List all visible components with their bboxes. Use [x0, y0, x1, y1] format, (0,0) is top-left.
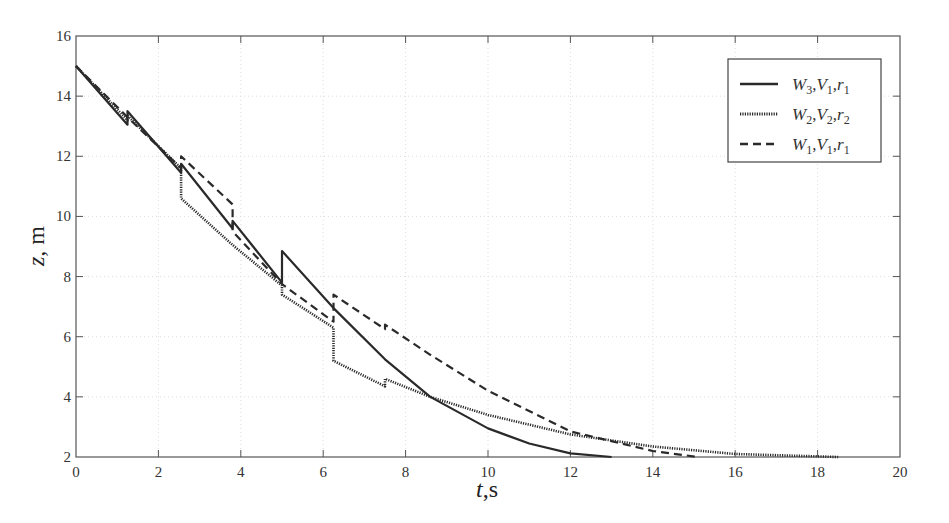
legend: W3,V1,r1W2,V2,r2W1,V1,r1	[728, 59, 881, 162]
data-series	[76, 66, 838, 457]
x-tick-label: 4	[237, 464, 245, 480]
x-axis-label: t,s	[476, 476, 498, 502]
y-tick-label: 2	[64, 449, 72, 465]
y-tick-label: 16	[56, 28, 72, 44]
x-tick-label: 18	[810, 464, 825, 480]
series-line-dotted	[76, 66, 838, 457]
x-tick-label: 2	[155, 464, 163, 480]
legend-label: W3,V1,r1	[792, 75, 850, 97]
y-axis-label: z, m	[23, 226, 49, 267]
x-tick-label: 14	[645, 464, 661, 480]
line-chart: 02468101214161820246810121416 z, m t,s W…	[0, 0, 949, 523]
x-tick-label: 6	[319, 464, 327, 480]
y-tick-label: 14	[56, 88, 72, 104]
x-tick-label: 12	[563, 464, 578, 480]
legend-label: W1,V1,r1	[792, 135, 850, 157]
x-tick-label: 16	[728, 464, 744, 480]
x-tick-label: 8	[402, 464, 410, 480]
series-line-solid	[76, 66, 612, 457]
x-tick-label: 0	[72, 464, 80, 480]
y-tick-label: 12	[56, 148, 71, 164]
y-tick-label: 10	[56, 208, 71, 224]
legend-label: W2,V2,r2	[792, 105, 850, 127]
y-tick-label: 6	[64, 329, 72, 345]
x-tick-label: 20	[893, 464, 908, 480]
y-tick-label: 4	[64, 389, 72, 405]
y-tick-label: 8	[64, 269, 72, 285]
series-line-dashed	[76, 66, 698, 457]
